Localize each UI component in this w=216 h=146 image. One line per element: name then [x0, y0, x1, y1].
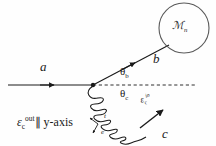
eps-out-relation-text: ∥ y-axis [35, 115, 73, 129]
diagram-canvas: a b c ℳn θb θc εcin εcout∥ y-axis t e [0, 0, 216, 146]
eps-out-superscript: out [25, 114, 35, 123]
coil-arrow-c [140, 110, 163, 128]
label-incoming-particle-a: a [40, 60, 47, 73]
eps-out-subscript: c [22, 122, 25, 131]
label-polarization-out-relation: εcout∥ y-axis [17, 115, 73, 131]
label-angle-theta-c: θc [120, 88, 128, 102]
label-outgoing-particle-c: c [162, 127, 168, 140]
coil-propagator-c [88, 86, 146, 144]
mass-blob-subscript: n [184, 26, 187, 33]
label-mass-blob: ℳn [172, 20, 187, 34]
axis-marker-arrow-down [93, 124, 98, 133]
label-angle-theta-b: θb [120, 66, 129, 80]
theta-c-subscript: c [125, 94, 128, 101]
eps-in-subscript: c [144, 99, 148, 105]
label-axis-marker-t: t [104, 113, 106, 120]
mass-blob-symbol: ℳ [172, 19, 184, 31]
theta-b-subscript: b [125, 72, 128, 79]
label-outgoing-particle-b: b [153, 52, 160, 65]
label-axis-marker-e: e [101, 129, 104, 136]
